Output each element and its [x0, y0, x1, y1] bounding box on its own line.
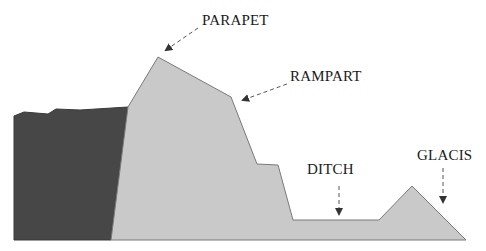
rampart-arrow	[243, 84, 287, 100]
glacis-label: GLACIS	[417, 148, 472, 163]
earthwork-profile	[111, 57, 466, 240]
parapet-label: PARAPET	[202, 13, 269, 28]
ditch-label: DITCH	[307, 162, 354, 177]
dark-earth-region	[14, 107, 128, 240]
rampart-label: RAMPART	[290, 69, 362, 84]
parapet-arrow	[166, 28, 198, 50]
fortification-diagram	[0, 0, 486, 251]
